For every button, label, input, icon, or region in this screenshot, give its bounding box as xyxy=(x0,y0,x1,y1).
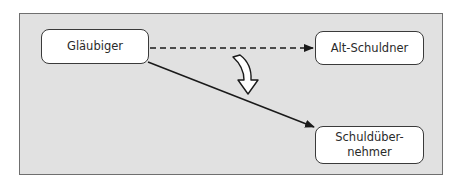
solid-arrow-to-schulduebernehmer xyxy=(148,62,314,127)
node-glaeubiger-label: Gläubiger xyxy=(67,39,123,54)
node-schulduebernehmer: Schuldüber- nehmer xyxy=(315,126,424,164)
node-schulduebernehmer-line2: nehmer xyxy=(335,145,404,160)
node-schulduebernehmer-line1: Schuldüber- xyxy=(335,130,404,145)
curved-transition-arrow-icon xyxy=(233,55,258,94)
node-alt-schuldner-label: Alt-Schuldner xyxy=(331,41,409,56)
node-alt-schuldner: Alt-Schuldner xyxy=(315,31,424,65)
node-glaeubiger: Gläubiger xyxy=(41,29,149,64)
